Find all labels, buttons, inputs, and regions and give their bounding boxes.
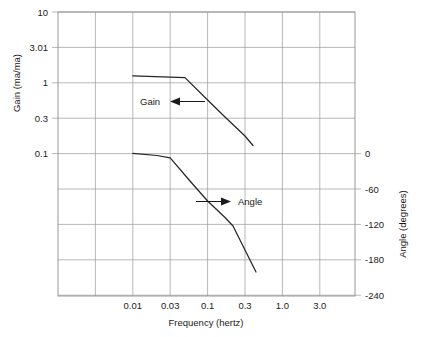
ytick-label-2: 1: [43, 77, 48, 88]
y2-axis-title: Angle (degrees): [397, 190, 408, 258]
left-axis-tick-labels: 10 3.01 1 0.3 0.1: [30, 7, 49, 160]
xtick-label-0: 0.01: [124, 300, 143, 311]
gain-label: Gain: [140, 96, 160, 107]
xtick-label-1: 0.03: [161, 300, 180, 311]
y2tick-label-2: -120: [365, 219, 384, 230]
x-axis-tick-labels: 0.01 0.03 0.1 0.3 1.0 3.0: [124, 300, 327, 311]
bode-plot-figure: 10 3.01 1 0.3 0.1 0 -60 -120 -180 -240 0…: [0, 0, 421, 337]
xtick-label-2: 0.1: [201, 300, 214, 311]
ytick-label-4: 0.1: [35, 148, 48, 159]
ytick-label-3: 0.3: [35, 113, 48, 124]
chart-canvas: 10 3.01 1 0.3 0.1 0 -60 -120 -180 -240 0…: [0, 0, 421, 337]
right-axis-ticks: [355, 154, 361, 296]
y2tick-label-1: -60: [365, 184, 379, 195]
xtick-label-5: 3.0: [313, 300, 326, 311]
y2tick-label-3: -180: [365, 254, 384, 265]
right-axis-tick-labels: 0 -60 -120 -180 -240: [365, 148, 384, 301]
y2tick-label-0: 0: [365, 148, 370, 159]
x-axis-title: Frequency (hertz): [169, 317, 244, 328]
xtick-label-4: 1.0: [276, 300, 289, 311]
y2tick-label-4: -240: [365, 290, 384, 301]
ytick-label-1: 3.01: [30, 42, 49, 53]
ytick-label-0: 10: [37, 7, 48, 18]
xtick-label-3: 0.3: [238, 300, 251, 311]
angle-label: Angle: [238, 196, 262, 207]
left-axis-ticks: [52, 12, 58, 154]
y-axis-title: Gain (ma/ma): [11, 54, 22, 112]
plot-background: [58, 12, 355, 296]
